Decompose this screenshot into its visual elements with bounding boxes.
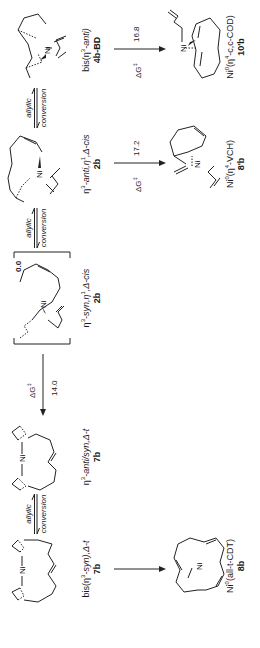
label-2b-syn: η3-syn,η1,Δ-cis 2b — [80, 248, 102, 348]
barrier-14-value: 14.0 — [50, 380, 59, 396]
allylic-conversion-3: allylic conversion — [24, 86, 48, 130]
structure-7b-anti-syn: Ni — [8, 418, 70, 498]
svg-text:Ni: Ni — [195, 562, 204, 570]
label-7b-anti-syn: η3-anti/syn,Δ-t 7b — [80, 412, 102, 502]
label-4b-BD: bis(η3-anti) 4b-BD — [80, 8, 102, 92]
svg-text:Ni: Ni — [35, 170, 44, 178]
structure-7b-bis-syn: Ni — [8, 530, 70, 610]
structure-2b-anti: Ni — [6, 124, 72, 208]
svg-text:Ni: Ni — [18, 566, 27, 574]
structure-8b: Ni — [168, 530, 228, 600]
svg-text:Ni: Ni — [193, 160, 202, 168]
barrier-17-value: 17.2 — [132, 140, 141, 156]
barrier-17-label: ΔG‡ — [132, 177, 143, 192]
label-8-prime-b: Ni0(η4-VCH) 8'b — [224, 118, 246, 210]
svg-text:Ni: Ni — [18, 454, 27, 462]
structure-8-prime-b: Ni — [166, 118, 226, 202]
arrow-4b-to-10b-prime — [114, 44, 166, 54]
arrow-7b-to-8b — [114, 564, 166, 574]
barrier-14-label: ΔG‡ — [26, 383, 37, 398]
allylic-conversion-2: allylic conversion — [24, 206, 48, 250]
label-2b-anti: η3-anti,η1,Δ-cis 2b — [80, 116, 102, 212]
label-8b: Ni0(all-t-CDT) 8b — [224, 518, 246, 614]
reaction-scheme: Ni bis(η3-syn),Δ-t 7b allylic conversion… — [0, 0, 260, 648]
svg-text:Ni: Ni — [39, 300, 48, 308]
barrier-16-label: ΔG‡ — [132, 63, 143, 78]
svg-text:Ni: Ni — [43, 46, 52, 54]
allylic-conversion-1: allylic conversion — [24, 492, 48, 536]
structure-2b-syn: Ni — [14, 258, 70, 342]
label-10-prime-b: Ni0(η4-c,c-COD) 10'b — [224, 0, 246, 94]
arrow-2b-to-8b-prime — [114, 158, 166, 168]
structure-4b-BD: Ni — [6, 4, 72, 88]
structure-10-prime-b: Ni — [166, 4, 226, 88]
svg-text:Ni: Ni — [179, 44, 188, 52]
barrier-16-value: 16.8 — [132, 26, 141, 42]
label-7b-bis-syn: bis(η3-syn),Δ-t 7b — [80, 524, 102, 614]
arrow-barrier-14 — [38, 352, 48, 416]
